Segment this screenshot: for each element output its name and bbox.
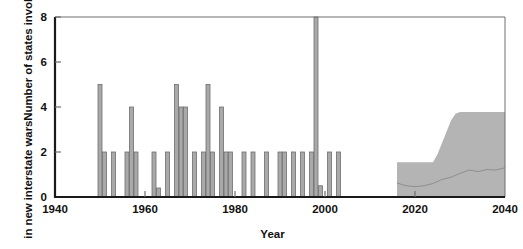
bar [130, 107, 134, 197]
bar [278, 152, 282, 197]
bar [314, 17, 318, 197]
bar [184, 107, 188, 197]
bar [179, 107, 183, 197]
bar [310, 152, 314, 197]
bar-series [98, 17, 341, 197]
bar [242, 152, 246, 197]
bar [134, 152, 138, 197]
interstate-wars-chart: in new interstate wars Number of states … [0, 0, 523, 249]
bar [265, 152, 269, 197]
bar [251, 152, 255, 197]
projection-band-area [397, 112, 505, 197]
bar [283, 152, 287, 197]
bar [166, 152, 170, 197]
bar [328, 152, 332, 197]
bar [319, 186, 323, 197]
plot-canvas [0, 0, 523, 249]
bar [206, 85, 210, 198]
bar [157, 188, 161, 197]
bar [193, 152, 197, 197]
axis-ticks [55, 17, 415, 197]
projection-band [397, 112, 505, 197]
bar [152, 152, 156, 197]
bar [292, 152, 296, 197]
bar [125, 152, 129, 197]
bar [211, 152, 215, 197]
bar [229, 152, 233, 197]
bar [202, 152, 206, 197]
bar [220, 107, 224, 197]
bar [103, 152, 107, 197]
bar [337, 152, 341, 197]
bar [98, 85, 102, 198]
bar [175, 85, 179, 198]
bar [301, 152, 305, 197]
bar [112, 152, 116, 197]
bar [224, 152, 228, 197]
